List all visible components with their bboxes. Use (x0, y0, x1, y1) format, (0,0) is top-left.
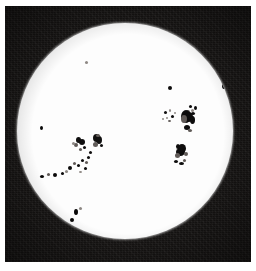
solar-photograph-page (0, 0, 256, 271)
sunspot (74, 209, 78, 215)
sunspot (70, 218, 74, 222)
solar-disk-surface (17, 23, 233, 239)
photographic-plate (5, 6, 251, 262)
sunspot (79, 207, 82, 210)
solar-disk (17, 23, 233, 239)
sunspot-group-southwest-group (17, 23, 233, 239)
